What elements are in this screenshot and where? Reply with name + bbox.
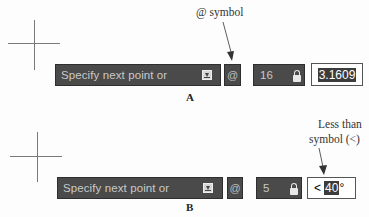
annotation-arrows xyxy=(0,0,369,217)
